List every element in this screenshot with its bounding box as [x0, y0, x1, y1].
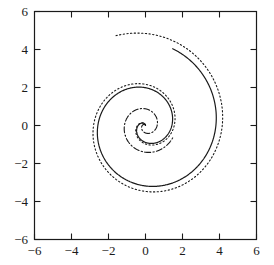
y-tick-label: −4	[14, 194, 28, 209]
x-tick-label: −2	[102, 243, 116, 258]
x-tick-label: 2	[179, 243, 186, 258]
x-tick-labels: −6−4−20246	[28, 243, 261, 258]
x-tick-label: 4	[216, 243, 223, 258]
y-tick-labels: −6−4−20246	[14, 4, 28, 247]
y-tick-label: −6	[14, 232, 28, 247]
x-tick-label: −4	[65, 243, 79, 258]
y-tick-label: 6	[22, 4, 29, 19]
y-tick-label: −2	[14, 156, 28, 171]
y-tick-label: 0	[22, 118, 29, 133]
spiral-chart-figure: −6−4−20246 −6−4−20246	[0, 0, 274, 265]
y-tick-label: 4	[22, 42, 29, 57]
x-tick-label: 6	[253, 243, 260, 258]
x-tick-label: −6	[28, 243, 42, 258]
y-tick-label: 2	[22, 80, 29, 95]
chart-canvas: −6−4−20246 −6−4−20246	[0, 0, 274, 265]
x-tick-label: 0	[142, 243, 149, 258]
